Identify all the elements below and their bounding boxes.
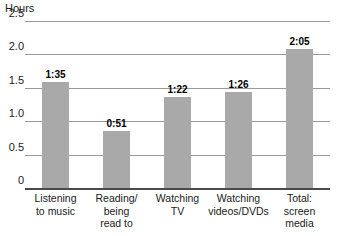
y-axis-tick-label: 0 [3, 174, 24, 186]
x-axis-category-label: WatchingTV [147, 192, 208, 217]
y-axis-tick-label: 2.5 [3, 7, 24, 19]
y-axis-tick-label: 1.0 [3, 107, 24, 119]
x-axis-category-line: Watching [208, 192, 269, 205]
x-axis-category-line: to music [25, 205, 86, 218]
x-axis-category-label: Listeningto music [25, 192, 86, 217]
x-axis-category-line: Listening [25, 192, 86, 205]
bar [164, 97, 191, 188]
bar-chart: Hours 00.51.01.52.02.51:35Listeningto mu… [0, 0, 337, 236]
y-axis-tick-label: 1.5 [3, 74, 24, 86]
x-axis-category-line: videos/DVDs [208, 205, 269, 218]
x-axis-category-line: read to [86, 217, 147, 230]
bar-value-label: 1:35 [31, 69, 81, 80]
bar [225, 92, 252, 188]
x-axis-line [25, 188, 330, 190]
gridline [25, 54, 330, 55]
x-axis-category-line: Reading/ [86, 192, 147, 205]
x-axis-category-label: Watchingvideos/DVDs [208, 192, 269, 217]
bar [286, 49, 313, 188]
x-axis-category-line: TV [147, 205, 208, 218]
bar-value-label: 0:51 [92, 118, 142, 129]
bar-value-label: 2:05 [275, 36, 325, 47]
x-axis-category-line: being [86, 205, 147, 218]
x-axis-category-line: Watching [147, 192, 208, 205]
x-axis-category-line: screen [269, 205, 330, 218]
bar [42, 82, 69, 188]
x-axis-category-label: Reading/beingread to [86, 192, 147, 230]
bar-value-label: 1:26 [214, 79, 264, 90]
x-axis-category-line: media [269, 217, 330, 230]
y-axis-tick-label: 0.5 [3, 141, 24, 153]
x-axis-category-label: Total:screenmedia [269, 192, 330, 230]
bar-value-label: 1:22 [153, 84, 203, 95]
x-axis-category-line: Total: [269, 192, 330, 205]
bar [103, 131, 130, 188]
y-axis-tick-label: 2.0 [3, 40, 24, 52]
gridline [25, 21, 330, 22]
